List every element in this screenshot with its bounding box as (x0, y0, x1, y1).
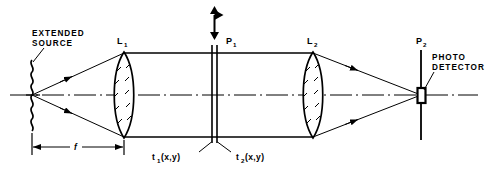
plane2-label-subscript: 2 (423, 41, 427, 48)
transparency2-label: t (236, 152, 239, 162)
transparency-leader-lines (199, 142, 231, 152)
lens-L2 (303, 52, 323, 138)
lens1-label-subscript: 1 (124, 41, 128, 48)
transparency1-label: t (152, 152, 155, 162)
plane2-label: P (416, 36, 422, 46)
plane1-label-subscript: 1 (233, 41, 237, 48)
lens1-label: L (117, 36, 123, 46)
source-leader-line (33, 48, 44, 62)
source-label-line2: SOURCE (32, 39, 73, 48)
optical-diagram: EXTENDED SOURCE L 1 L 2 P 1 P 2 PHOTO DE… (0, 0, 492, 171)
lens-L1 (114, 52, 134, 138)
p1-translation-arrow (210, 6, 219, 40)
detector-label-line1: PHOTO (432, 53, 466, 62)
lens2-label-subscript: 2 (314, 41, 318, 48)
transparency1-argument: (x,y) (161, 152, 180, 162)
transparency2-argument: (x,y) (245, 152, 264, 162)
detector-leader-line (424, 72, 434, 90)
lens2-label: L (307, 36, 313, 46)
plane1-label: P (226, 36, 232, 46)
photo-detector (418, 88, 426, 103)
detector-label-line2: DETECTOR (432, 63, 485, 72)
figure-canvas: EXTENDED SOURCE L 1 L 2 P 1 P 2 PHOTO DE… (0, 0, 492, 171)
source-label-line1: EXTENDED (32, 29, 85, 38)
plane-P1 (212, 45, 217, 143)
